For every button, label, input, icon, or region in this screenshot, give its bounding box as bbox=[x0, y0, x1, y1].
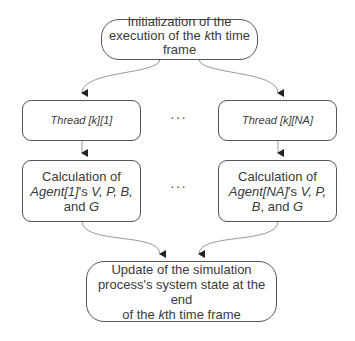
thread-first-label: Thread [k][1] bbox=[51, 113, 113, 128]
init-node: Initialization of the execution of the k… bbox=[101, 19, 258, 60]
init-line1: Initialization of the bbox=[109, 15, 250, 29]
edge-init-thread-first bbox=[82, 59, 160, 93]
ellipsis-threads: ··· bbox=[170, 109, 187, 125]
thread-first-node: Thread [k][1] bbox=[22, 100, 141, 141]
thread-last-node: Thread [k][NA] bbox=[218, 100, 337, 141]
ellipsis-calcs: ··· bbox=[170, 178, 187, 194]
calc-last-node: Calculation of Agent[NA]'s V, P, B, and … bbox=[218, 160, 337, 222]
edge-init-thread-last bbox=[199, 59, 278, 93]
edge-calc-last-update bbox=[199, 221, 278, 254]
thread-last-label: Thread [k][NA] bbox=[242, 113, 313, 128]
init-line3: frame bbox=[109, 43, 250, 57]
update-node: Update of the simulation process's syste… bbox=[86, 261, 277, 322]
edge-calc-first-update bbox=[82, 221, 160, 254]
calc-first-node: Calculation of Agent[1]'s V, P, B, and G bbox=[22, 160, 141, 222]
